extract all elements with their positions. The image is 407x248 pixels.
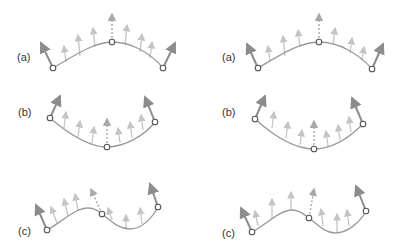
normal-arrow-icon <box>64 46 66 62</box>
curve <box>50 118 155 147</box>
normal-arrow-icon <box>326 131 328 146</box>
panel-label-left-a: (a) <box>17 51 30 63</box>
normal-arrow-icon <box>272 112 274 128</box>
panel-label-right-b: (b) <box>222 106 235 118</box>
control-point-icon <box>369 66 375 72</box>
panel-right-b <box>252 96 366 152</box>
normal-arrow-icon <box>51 207 57 223</box>
normal-arrow-icon <box>286 122 288 138</box>
tangent-arrow-icon <box>150 184 158 207</box>
normal-arrow-icon <box>362 47 364 60</box>
tangent-arrow-icon <box>255 96 265 119</box>
panel-left-a <box>41 14 175 71</box>
panel-label-right-a: (a) <box>222 51 235 63</box>
normal-arrow-icon <box>141 115 143 130</box>
control-point-icon <box>255 65 261 71</box>
tangent-arrow-icon <box>372 44 383 69</box>
tangent-arrow-icon <box>163 43 175 68</box>
control-point-icon <box>363 208 369 214</box>
control-point-icon <box>306 215 312 221</box>
tangent-arrow-icon <box>50 96 60 118</box>
control-point-icon <box>311 146 317 152</box>
tangent-arrow-icon <box>247 44 258 68</box>
panel-left-c <box>36 184 161 233</box>
tangent-arrow-icon <box>241 208 252 232</box>
normal-arrow-icon <box>333 28 335 45</box>
panel-label-left-c: (c) <box>18 225 31 237</box>
tangent-arrow-icon <box>41 43 53 68</box>
control-point-icon <box>104 144 110 150</box>
normal-arrow-icon <box>125 25 127 45</box>
panel-label-right-c: (c) <box>222 227 235 239</box>
normal-arrow-icon <box>300 130 302 145</box>
normal-arrow-icon <box>75 194 78 211</box>
control-point-icon <box>152 119 158 125</box>
normal-arrow-icon <box>64 199 68 216</box>
control-point-icon <box>252 116 258 122</box>
dashed-arrow-icon <box>309 189 314 218</box>
curve <box>53 42 163 68</box>
tangent-arrow-icon <box>356 186 366 211</box>
control-point-icon <box>109 39 115 45</box>
panel-right-a <box>247 14 383 72</box>
control-point-icon <box>360 121 366 127</box>
normal-arrow-icon <box>268 46 270 62</box>
normal-arrow-icon <box>92 127 94 143</box>
normal-arrow-icon <box>93 28 95 47</box>
panel-left-b <box>47 96 158 150</box>
normal-arrow-icon <box>349 117 351 132</box>
diagram-canvas <box>0 0 407 248</box>
tangent-arrow-icon <box>36 205 47 230</box>
tangent-arrow-icon <box>145 97 155 122</box>
normal-arrow-icon <box>347 210 349 226</box>
normal-arrow-icon <box>130 122 132 138</box>
control-point-icon <box>99 211 105 217</box>
tangent-arrow-icon <box>352 98 363 124</box>
control-point-icon <box>50 65 56 71</box>
control-point-icon <box>47 115 53 121</box>
normal-arrow-icon <box>108 208 112 220</box>
curve <box>258 42 372 69</box>
normal-arrow-icon <box>140 208 142 224</box>
normal-arrow-icon <box>298 30 300 47</box>
normal-arrow-icon <box>338 125 340 140</box>
control-point-icon <box>316 39 322 45</box>
panel-label-left-b: (b) <box>18 106 31 118</box>
panel-right-c <box>241 186 369 235</box>
curve <box>255 119 363 149</box>
normal-arrow-icon <box>118 128 120 143</box>
normal-arrow-icon <box>255 211 258 226</box>
normal-arrow-icon <box>321 209 323 226</box>
normal-arrow-icon <box>78 121 80 137</box>
control-point-icon <box>155 204 161 210</box>
control-point-icon <box>160 65 166 71</box>
normal-arrow-icon <box>64 112 66 128</box>
control-point-icon <box>249 229 255 235</box>
control-point-icon <box>44 227 50 233</box>
